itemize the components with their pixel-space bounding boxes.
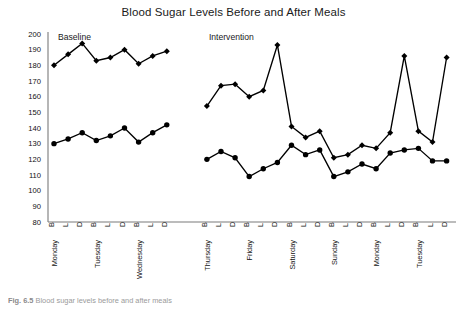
- chart-axes: [48, 32, 456, 222]
- data-point: [402, 147, 407, 152]
- x-day-label-wednesday-2: Wednesday: [135, 240, 144, 279]
- data-point: [388, 150, 393, 155]
- x-day-label-tuesday-1: Tuesday: [93, 240, 102, 268]
- x-tick-meal-24: B: [411, 222, 420, 227]
- x-tick-meal-26: D: [440, 222, 449, 227]
- x-tick-meal-8: D: [160, 222, 169, 227]
- data-point: [345, 169, 350, 174]
- y-tick-90: 90: [33, 202, 41, 211]
- data-point: [331, 155, 337, 161]
- data-point: [247, 174, 252, 179]
- x-day-label-monday-0: Monday: [50, 240, 59, 267]
- figure-container: Blood Sugar Levels Before and After Meal…: [0, 0, 467, 309]
- x-tick-meal-14: D: [270, 222, 279, 227]
- data-point: [136, 139, 141, 144]
- data-point: [94, 138, 99, 143]
- data-point: [80, 130, 85, 135]
- data-point: [373, 166, 378, 171]
- x-tick-meal-15: B: [285, 222, 294, 227]
- x-tick-meal-13: L: [256, 223, 265, 227]
- data-point: [204, 157, 209, 162]
- data-point: [401, 53, 407, 59]
- x-tick-meal-17: D: [313, 222, 322, 227]
- x-tick-meal-19: L: [341, 223, 350, 227]
- y-tick-200: 200: [28, 30, 41, 39]
- data-point: [51, 141, 56, 146]
- y-tick-110: 110: [29, 171, 41, 180]
- plot-area: 2001901801701601501401301201101009080 Ba…: [0, 26, 467, 288]
- y-axis-tick-labels: 2001901801701601501401301201101009080: [28, 30, 41, 227]
- x-tick-meal-0: B: [47, 222, 56, 227]
- y-tick-80: 80: [33, 218, 41, 227]
- data-point: [260, 87, 266, 93]
- x-day-label-friday-4: Friday: [245, 240, 254, 261]
- y-tick-160: 160: [28, 92, 41, 101]
- x-tick-meal-20: D: [355, 222, 364, 227]
- data-point: [150, 53, 156, 59]
- data-point: [359, 161, 364, 166]
- y-tick-100: 100: [28, 186, 41, 195]
- x-tick-meal-2: D: [75, 222, 84, 227]
- y-tick-120: 120: [28, 155, 41, 164]
- data-point: [444, 55, 450, 61]
- data-series-layer: [51, 40, 450, 179]
- line-chart-svg: 2001901801701601501401301201101009080 Ba…: [0, 26, 467, 288]
- x-axis-tick-labels: BLDBLDBLDBLDBLDBLDBLDBLDBLD: [47, 222, 449, 227]
- x-day-label-sunday-6: Sunday: [330, 240, 339, 265]
- y-tick-170: 170: [28, 77, 41, 86]
- y-tick-180: 180: [28, 61, 41, 70]
- x-tick-meal-9: B: [200, 222, 209, 227]
- x-day-label-tuesday-8: Tuesday: [415, 240, 424, 268]
- data-point: [289, 143, 294, 148]
- data-point: [261, 166, 266, 171]
- data-point: [218, 149, 223, 154]
- x-tick-meal-25: L: [426, 223, 435, 227]
- data-point: [275, 160, 280, 165]
- data-point: [317, 128, 323, 134]
- figure-caption: Fig. 6.5 Blood sugar levels before and a…: [8, 296, 428, 305]
- x-tick-meal-12: B: [242, 222, 251, 227]
- x-day-label-monday-7: Monday: [372, 240, 381, 267]
- x-axis-day-labels: MondayTuesdayWednesdayThursdayFridaySatu…: [50, 240, 423, 279]
- x-tick-meal-3: B: [89, 222, 98, 227]
- data-point: [317, 147, 322, 152]
- x-tick-meal-6: B: [132, 222, 141, 227]
- data-point: [150, 130, 155, 135]
- caption-prefix: Fig. 6.5: [8, 296, 33, 305]
- caption-text: Blood sugar levels before and after meal…: [36, 296, 172, 305]
- phase-labels: BaselineIntervention: [58, 32, 254, 42]
- x-tick-meal-5: D: [118, 222, 127, 227]
- y-tick-130: 130: [28, 139, 41, 148]
- x-day-label-thursday-3: Thursday: [203, 240, 212, 271]
- x-tick-meal-23: D: [397, 222, 406, 227]
- x-tick-meal-7: L: [146, 223, 155, 227]
- x-tick-meal-10: L: [214, 223, 223, 227]
- x-tick-meal-22: L: [383, 223, 392, 227]
- x-tick-meal-1: L: [61, 223, 70, 227]
- data-point: [303, 152, 308, 157]
- x-tick-meal-18: B: [327, 222, 336, 227]
- data-point: [416, 146, 421, 151]
- data-point: [164, 122, 169, 127]
- chart-title: Blood Sugar Levels Before and After Meal…: [0, 6, 467, 18]
- data-point: [164, 48, 170, 54]
- phase-label-intervention: Intervention: [209, 32, 254, 42]
- phase-label-baseline: Baseline: [58, 32, 91, 42]
- data-point: [108, 133, 113, 138]
- x-day-label-saturday-5: Saturday: [288, 240, 297, 270]
- x-tick-meal-4: L: [103, 223, 112, 227]
- x-tick-meal-11: D: [228, 222, 237, 227]
- y-tick-190: 190: [28, 45, 41, 54]
- x-tick-meal-21: B: [369, 222, 378, 227]
- data-point: [444, 158, 449, 163]
- y-tick-150: 150: [28, 108, 41, 117]
- series-line-segment-1: [207, 145, 447, 176]
- series-after-meal: [51, 40, 450, 160]
- data-point: [122, 125, 127, 130]
- data-point: [331, 174, 336, 179]
- data-point: [430, 158, 435, 163]
- series-line-segment-1: [207, 45, 447, 158]
- data-point: [232, 155, 237, 160]
- x-tick-meal-16: L: [299, 223, 308, 227]
- data-point: [65, 136, 70, 141]
